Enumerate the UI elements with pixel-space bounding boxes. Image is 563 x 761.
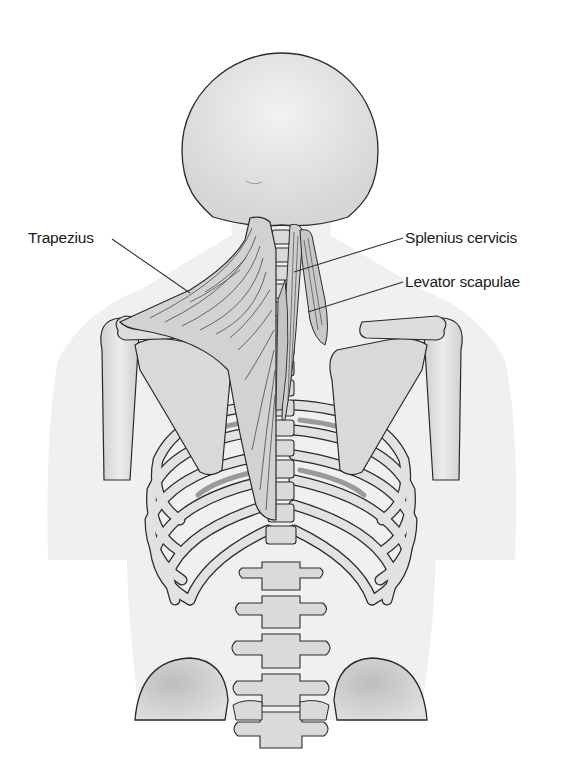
label-splenius-cervicis: Splenius cervicis	[405, 229, 517, 247]
label-trapezius: Trapezius	[28, 229, 94, 247]
anatomy-diagram	[0, 0, 563, 761]
head	[182, 53, 378, 226]
label-levator-scapulae: Levator scapulae	[405, 273, 520, 291]
